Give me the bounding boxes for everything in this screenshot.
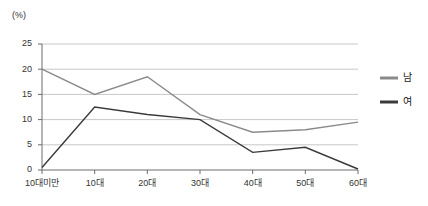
x-tick-label-0: 10대미만	[25, 178, 59, 188]
line-chart-plot: 0510152025 10대미만10대20대30대40대50대60대 남여	[0, 0, 428, 206]
x-tick-label-3: 30대	[191, 178, 209, 188]
y-axis-tick-labels: 0510152025	[22, 38, 32, 174]
y-tick-label-15: 15	[22, 89, 32, 99]
gridlines-group	[42, 44, 358, 145]
y-tick-label-25: 25	[22, 38, 32, 48]
chart-container: (%) 0510152025 10대미만10대20대30대40대50대60대 남…	[0, 0, 428, 206]
y-tick-label-20: 20	[22, 64, 32, 74]
series-line-남	[42, 69, 358, 132]
y-tick-label-10: 10	[22, 114, 32, 124]
y-tick-label-0: 0	[27, 164, 32, 174]
legend-label-여: 여	[403, 96, 412, 107]
x-tick-label-1: 10대	[86, 178, 104, 188]
x-tick-label-6: 60대	[349, 178, 367, 188]
legend-label-남: 남	[403, 72, 412, 83]
y-tick-label-5: 5	[27, 139, 32, 149]
x-tick-label-2: 20대	[138, 178, 156, 188]
x-tick-label-5: 50대	[296, 178, 314, 188]
data-series-group	[42, 69, 358, 169]
x-tick-label-4: 40대	[244, 178, 262, 188]
chart-legend: 남여	[380, 72, 412, 107]
x-axis-tick-labels: 10대미만10대20대30대40대50대60대	[25, 178, 367, 188]
series-line-여	[42, 107, 358, 169]
axes-group	[38, 44, 358, 174]
